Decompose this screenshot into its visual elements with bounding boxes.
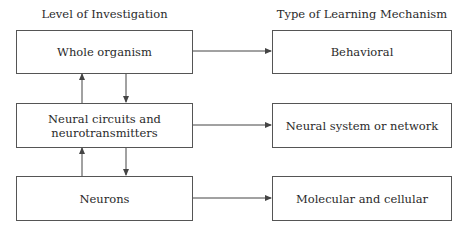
- box-label: Neural system or network: [286, 119, 438, 133]
- box-neural-system: Neural system or network: [272, 103, 452, 148]
- box-label: Behavioral: [331, 45, 394, 59]
- box-neurons: Neurons: [16, 176, 193, 221]
- box-behavioral: Behavioral: [272, 30, 452, 74]
- box-neural-circuits: Neural circuits and neurotransmitters: [16, 103, 193, 148]
- box-label: Whole organism: [57, 45, 152, 59]
- box-label-line1: Neural circuits and: [48, 112, 161, 126]
- box-label: Neurons: [79, 192, 129, 206]
- box-label-line2: neurotransmitters: [51, 126, 157, 140]
- box-whole-organism: Whole organism: [16, 30, 193, 74]
- box-molecular-cellular: Molecular and cellular: [272, 176, 452, 221]
- box-label: Molecular and cellular: [296, 192, 428, 206]
